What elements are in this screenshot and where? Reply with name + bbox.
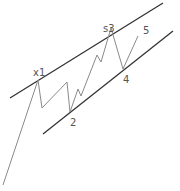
wave-label-2: 2 [70, 118, 76, 128]
upper-channel-line [10, 3, 163, 98]
wave-label-4: 4 [123, 75, 129, 85]
diagram-svg [0, 0, 180, 191]
wave-path [3, 28, 138, 185]
wave-label-s3: s3 [103, 24, 115, 34]
wave-label-5: 5 [143, 26, 149, 36]
wave-label-x1: x1 [33, 68, 45, 78]
elliott-wave-diagram: x1 2 s3 4 5 [0, 0, 180, 191]
lower-channel-line [43, 31, 173, 134]
